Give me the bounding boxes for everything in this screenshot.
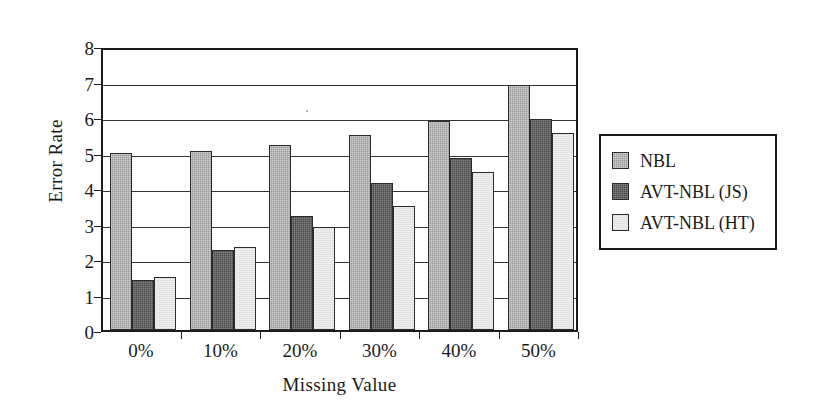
x-tick-mark [578,332,579,339]
legend-swatch-icon [612,183,629,200]
legend-item: AVT-NBL (JS) [612,176,765,207]
y-tick-mark [94,332,101,333]
y-tick-mark [94,297,101,298]
bar [212,250,234,330]
y-tick-label: 8 [66,39,94,58]
gridline [103,262,576,263]
y-tick-mark [94,155,101,156]
x-tick-mark [260,332,261,339]
y-tick-mark [94,84,101,85]
y-tick-label: 3 [66,216,94,235]
plot-inner [103,50,576,330]
y-tick-label: 0 [66,323,94,342]
legend-label: AVT-NBL (JS) [640,183,748,201]
bar-chart-figure: Error Rate 012345678 0%10%20%30%40%50% M… [0,0,816,415]
y-tick-mark [94,48,101,49]
bar [313,227,335,330]
bar [349,135,371,330]
y-tick-label: 7 [66,74,94,93]
y-tick-mark [94,119,101,120]
bar [110,153,132,331]
x-tick-mark [499,332,500,339]
y-tick-label: 5 [66,145,94,164]
gridline [103,85,576,86]
x-tick-label: 10% [186,341,256,360]
bar [530,119,552,330]
y-tick-label: 1 [66,287,94,306]
bar [291,216,313,330]
legend-label: NBL [640,152,676,170]
y-tick-mark [94,261,101,262]
bar [472,172,494,330]
bar [154,277,176,330]
legend-swatch-icon [612,214,629,231]
scan-speck [306,110,308,112]
plot-area [101,48,578,332]
bar [269,145,291,330]
x-tick-label: 50% [504,341,574,360]
legend-swatch-icon [612,152,629,169]
x-tick-mark [419,332,420,339]
gridline [103,191,576,192]
y-tick-label: 4 [66,181,94,200]
gridline [103,227,576,228]
x-tick-mark [181,332,182,339]
legend: NBLAVT-NBL (JS)AVT-NBL (HT) [599,134,777,250]
y-axis-title: Error Rate [45,61,67,261]
bar [371,183,393,330]
y-tick-mark [94,226,101,227]
x-tick-label: 0% [106,341,176,360]
legend-label: AVT-NBL (HT) [640,214,755,232]
bar [450,158,472,330]
legend-item: NBL [612,145,765,176]
bar [234,247,256,330]
y-tick-label: 2 [66,252,94,271]
x-tick-label: 30% [345,341,415,360]
legend-item: AVT-NBL (HT) [612,207,765,238]
bar [428,121,450,330]
gridline [103,156,576,157]
gridline [103,120,576,121]
bar [132,280,154,330]
bar [508,85,530,330]
y-tick-label: 6 [66,110,94,129]
x-tick-label: 20% [265,341,335,360]
bar [190,151,212,330]
x-tick-label: 40% [424,341,494,360]
x-axis-title: Missing Value [101,374,578,396]
bar [552,133,574,330]
x-tick-mark [340,332,341,339]
bar [393,206,415,330]
y-tick-mark [94,190,101,191]
